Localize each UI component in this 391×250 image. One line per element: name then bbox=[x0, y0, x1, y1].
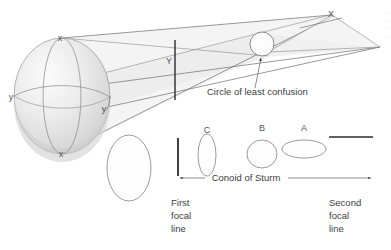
label-second-focal-line-1: Second bbox=[329, 197, 361, 208]
label-cross-section-B: B bbox=[259, 123, 265, 133]
label-sphere-bottom-x: x bbox=[59, 149, 64, 159]
label-conoid-of-sturm: Conoid of Sturm bbox=[212, 172, 281, 183]
label-first-focal-Y: Y bbox=[166, 56, 172, 66]
cross-section-A-shape bbox=[282, 140, 326, 158]
diagram-canvas: x x y y Y X Circle of least confusion C … bbox=[0, 0, 391, 250]
cross-section-B-shape bbox=[247, 140, 277, 168]
page-edge-artifact bbox=[385, 12, 391, 37]
label-first-focal-line-2: focal bbox=[171, 210, 191, 221]
circle-of-least-confusion-leader bbox=[255, 58, 261, 88]
label-cross-section-C: C bbox=[204, 125, 211, 135]
label-second-focal-line-3: line bbox=[329, 223, 344, 234]
circle-of-least-confusion-shape bbox=[250, 32, 274, 56]
cross-section-prefocal bbox=[107, 135, 151, 201]
label-sphere-right-y: y bbox=[102, 104, 107, 114]
conoid-of-sturm-figure: x x y y Y X Circle of least confusion C … bbox=[0, 0, 391, 250]
label-first-focal-line-3: line bbox=[171, 223, 186, 234]
label-sphere-left-y: y bbox=[9, 92, 14, 102]
label-sphere-top-x: x bbox=[58, 33, 63, 43]
label-second-focal-line-2: focal bbox=[329, 210, 349, 221]
label-second-focal-X: X bbox=[328, 9, 334, 19]
label-circle-of-least-confusion: Circle of least confusion bbox=[207, 86, 308, 97]
label-first-focal-line-1: First bbox=[171, 197, 190, 208]
cross-section-row bbox=[107, 134, 373, 201]
label-cross-section-A: A bbox=[301, 123, 307, 133]
refracting-sphere bbox=[14, 38, 110, 162]
cross-section-C-shape bbox=[198, 134, 216, 176]
